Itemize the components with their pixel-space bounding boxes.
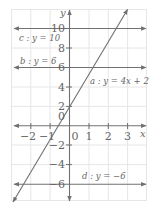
- label-line-c: c : y = 10: [19, 33, 61, 43]
- label-line-d: d : y = −6: [82, 171, 126, 181]
- y-tick-8: 8: [58, 42, 65, 55]
- y-axis-label: y: [59, 7, 66, 18]
- coordinate-plane: 10 8 6 4 2 0 −2 −4 −6 −2 −1 0 1 2 3 y x …: [0, 0, 152, 212]
- x-tick-2: 2: [105, 130, 112, 143]
- y-tick-neg6: −6: [49, 178, 65, 191]
- label-line-b: b : y = 6: [20, 56, 57, 66]
- y-tick-0: 0: [58, 110, 65, 123]
- y-tick-4: 4: [58, 81, 65, 94]
- x-tick-0: 0: [72, 130, 79, 143]
- y-tick-6: 6: [58, 61, 65, 74]
- x-tick-neg1: −1: [39, 130, 55, 143]
- x-tick-neg2: −2: [20, 130, 36, 143]
- label-line-a: a : y = 4x + 2: [90, 76, 149, 86]
- x-axis-label: x: [140, 128, 146, 139]
- y-tick-neg4: −4: [49, 158, 65, 171]
- x-tick-1: 1: [86, 130, 93, 143]
- x-tick-3: 3: [124, 130, 131, 143]
